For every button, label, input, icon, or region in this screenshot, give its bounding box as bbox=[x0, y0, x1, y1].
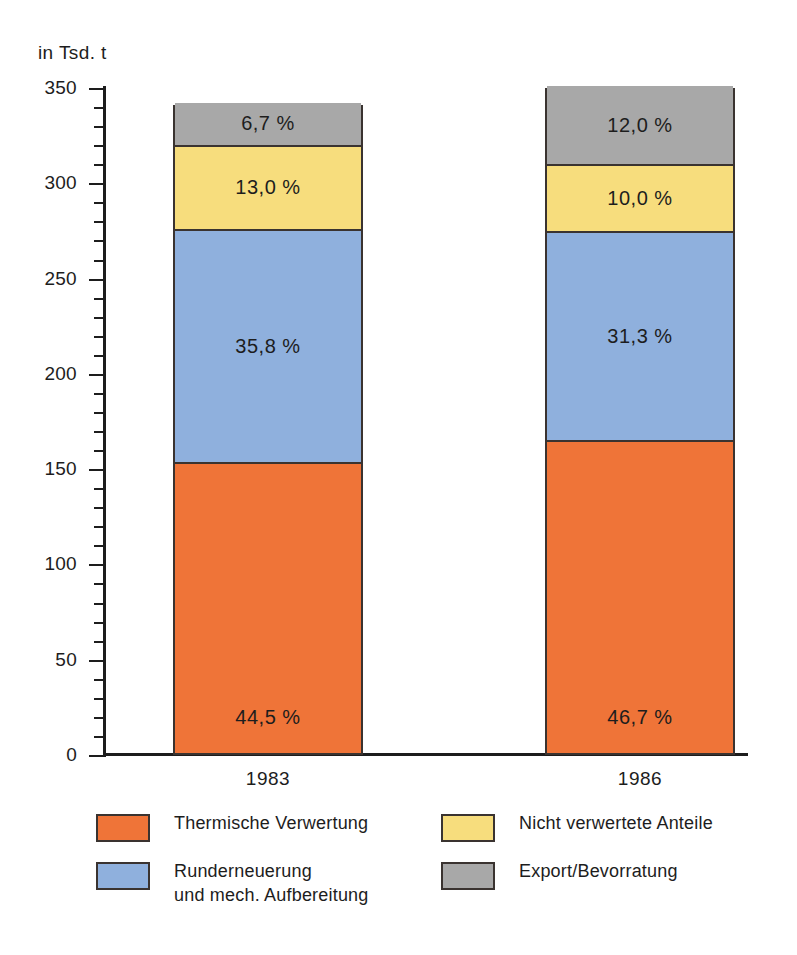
bar-1983: 44,5 %35,8 %13,0 %6,7 % bbox=[173, 105, 363, 755]
legend-label-export-bevorratung: Export/Bevorratung bbox=[519, 860, 678, 884]
bar-segment: 6,7 % bbox=[175, 103, 361, 147]
legend-swatch-thermische-verwertung bbox=[96, 814, 150, 842]
y-axis-tick-label: 250 bbox=[44, 268, 77, 290]
bar-segment-value-label: 44,5 % bbox=[235, 706, 300, 729]
y-axis-tick-label: 300 bbox=[44, 172, 77, 194]
legend-label-nicht-verwertete-anteile: Nicht verwertete Anteile bbox=[519, 812, 713, 836]
bar-segment-value-label: 13,0 % bbox=[235, 176, 300, 199]
y-axis-major-tick bbox=[89, 279, 103, 281]
y-axis-minor-tick bbox=[94, 507, 103, 509]
y-axis-minor-tick bbox=[94, 298, 103, 300]
bar-segment: 44,5 % bbox=[175, 464, 361, 753]
y-axis-minor-tick bbox=[94, 126, 103, 128]
bar-segment-value-label: 31,3 % bbox=[607, 325, 672, 348]
y-axis-minor-tick bbox=[94, 412, 103, 414]
y-axis-minor-tick bbox=[94, 545, 103, 547]
legend-swatch-export-bevorratung bbox=[441, 862, 495, 890]
y-axis-minor-tick bbox=[94, 488, 103, 490]
bar-segment: 13,0 % bbox=[175, 147, 361, 231]
bar-segment-value-label: 10,0 % bbox=[607, 187, 672, 210]
y-axis-minor-tick bbox=[94, 164, 103, 166]
y-axis-tick-label: 0 bbox=[66, 744, 77, 766]
y-axis-tick-label: 50 bbox=[55, 649, 77, 671]
y-axis-minor-tick bbox=[94, 355, 103, 357]
y-axis-minor-tick bbox=[94, 583, 103, 585]
y-axis-minor-tick bbox=[94, 202, 103, 204]
legend-swatch-runderneuerung-aufbereitung bbox=[96, 862, 150, 890]
y-axis-minor-tick bbox=[94, 221, 103, 223]
y-axis-major-tick bbox=[89, 564, 103, 566]
y-axis-minor-tick bbox=[94, 603, 103, 605]
bar-segment-value-label: 35,8 % bbox=[235, 335, 300, 358]
y-axis-minor-tick bbox=[94, 317, 103, 319]
bar-segment: 31,3 % bbox=[547, 233, 733, 442]
y-axis-major-tick bbox=[89, 469, 103, 471]
x-axis-label-1986: 1986 bbox=[545, 768, 735, 790]
legend-item-export-bevorratung[interactable]: Export/Bevorratung bbox=[441, 860, 756, 908]
y-axis-unit-label: in Tsd. t bbox=[38, 42, 107, 64]
stacked-bar-chart: in Tsd. t 050100150200250300350 44,5 %35… bbox=[0, 0, 797, 955]
y-axis-minor-tick bbox=[94, 450, 103, 452]
y-axis-major-tick bbox=[89, 88, 103, 90]
chart-legend: Thermische VerwertungNicht verwertete An… bbox=[96, 812, 756, 908]
y-axis-minor-tick bbox=[94, 336, 103, 338]
bar-segment: 10,0 % bbox=[547, 166, 733, 233]
y-axis-minor-tick bbox=[94, 260, 103, 262]
y-axis-minor-tick bbox=[94, 393, 103, 395]
y-axis-tick-label: 100 bbox=[44, 553, 77, 575]
legend-item-nicht-verwertete-anteile[interactable]: Nicht verwertete Anteile bbox=[441, 812, 756, 842]
y-axis-minor-tick bbox=[94, 622, 103, 624]
legend-label-thermische-verwertung: Thermische Verwertung bbox=[174, 812, 368, 836]
x-axis-label-1983: 1983 bbox=[173, 768, 363, 790]
legend-item-runderneuerung-aufbereitung[interactable]: Runderneuerung und mech. Aufbereitung bbox=[96, 860, 441, 908]
legend-swatch-nicht-verwertete-anteile bbox=[441, 814, 495, 842]
bar-segment-value-label: 46,7 % bbox=[607, 706, 672, 729]
bar-segment: 12,0 % bbox=[547, 86, 733, 166]
y-axis-tick-label: 150 bbox=[44, 458, 77, 480]
y-axis-minor-tick bbox=[94, 145, 103, 147]
y-axis-minor-tick bbox=[94, 717, 103, 719]
y-axis-minor-tick bbox=[94, 698, 103, 700]
legend-label-runderneuerung-aufbereitung: Runderneuerung und mech. Aufbereitung bbox=[174, 860, 369, 908]
bar-segment-value-label: 6,7 % bbox=[241, 112, 295, 135]
y-axis-major-tick bbox=[89, 660, 103, 662]
legend-item-thermische-verwertung[interactable]: Thermische Verwertung bbox=[96, 812, 441, 842]
y-axis-minor-tick bbox=[94, 431, 103, 433]
bar-segment: 35,8 % bbox=[175, 231, 361, 464]
y-axis-minor-tick bbox=[94, 736, 103, 738]
y-axis-minor-tick bbox=[94, 107, 103, 109]
bar-segment: 46,7 % bbox=[547, 442, 733, 753]
bar-segment-value-label: 12,0 % bbox=[607, 114, 672, 137]
plot-area: 050100150200250300350 44,5 %35,8 %13,0 %… bbox=[103, 88, 748, 755]
y-axis-major-tick bbox=[89, 374, 103, 376]
bar-1986: 46,7 %31,3 %10,0 %12,0 % bbox=[545, 88, 735, 755]
y-axis-minor-tick bbox=[94, 641, 103, 643]
y-axis-major-tick bbox=[89, 755, 103, 757]
y-axis-minor-tick bbox=[94, 240, 103, 242]
y-axis-minor-tick bbox=[94, 679, 103, 681]
y-axis-tick-label: 200 bbox=[44, 363, 77, 385]
y-axis-minor-tick bbox=[94, 526, 103, 528]
y-axis-tick-label: 350 bbox=[44, 77, 77, 99]
y-axis-major-tick bbox=[89, 183, 103, 185]
